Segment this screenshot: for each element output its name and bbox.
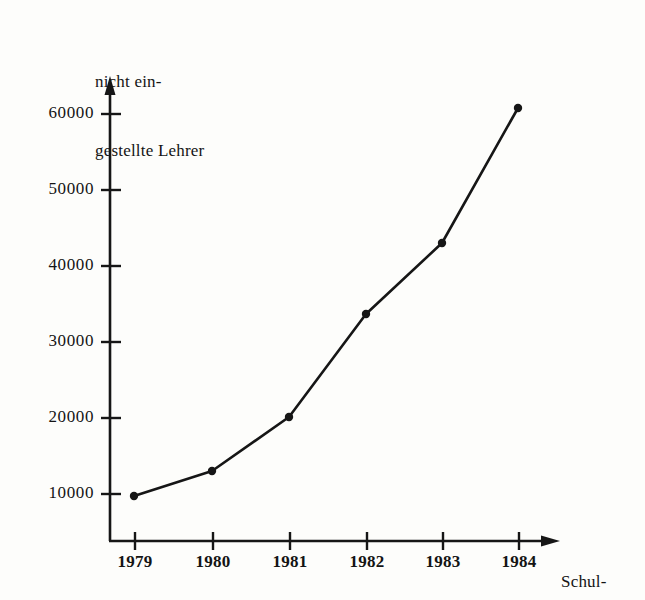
data-point-1984 [514,104,522,112]
x-axis [109,532,560,550]
data-series-line [134,108,518,496]
chart-plot-area [0,0,645,600]
data-point-1983 [438,239,446,247]
y-axis [101,76,121,541]
data-point-1979 [130,492,138,500]
data-point-1981 [285,413,293,421]
chart-figure: nicht ein- gestellte Lehrer Schul- jahre… [0,0,645,600]
data-point-1982 [362,310,370,318]
data-points [130,104,522,500]
data-point-1980 [208,467,216,475]
